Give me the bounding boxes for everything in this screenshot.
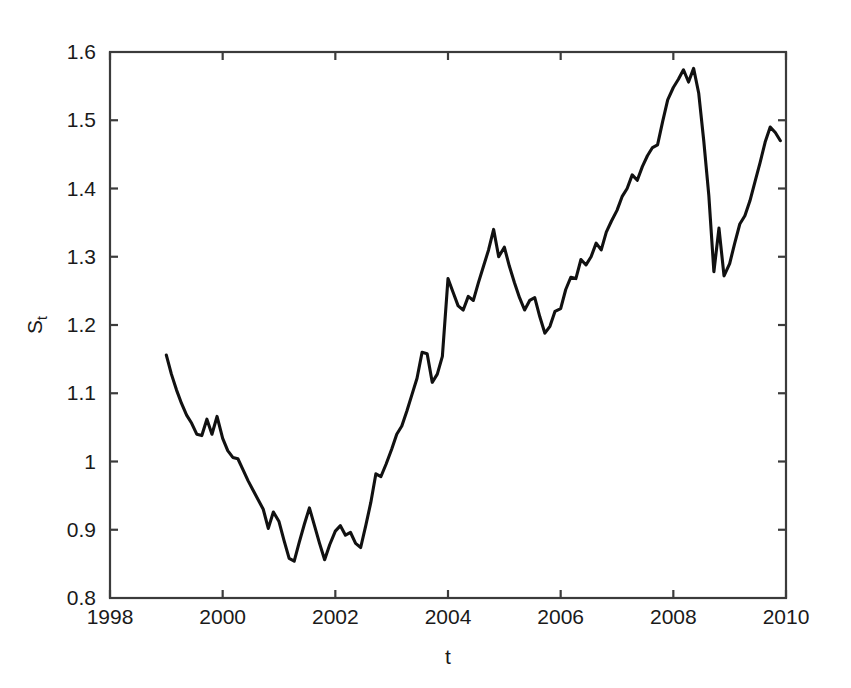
y-axis-ticks	[110, 120, 786, 530]
x-tick-label: 2008	[650, 605, 697, 628]
x-tick-label: 2004	[425, 605, 472, 628]
y-tick-label: 1.6	[67, 40, 96, 63]
plot-axes-frame	[110, 52, 786, 598]
y-tick-label: 1.2	[67, 313, 96, 336]
y-tick-label: 0.8	[67, 586, 96, 609]
series-line-st	[166, 68, 780, 561]
y-tick-label: 1.1	[67, 381, 96, 404]
data-series-group	[166, 68, 780, 561]
chart-figure: 1998200020022004200620082010 0.80.911.11…	[0, 0, 851, 688]
x-tick-label: 2010	[763, 605, 810, 628]
x-tick-label: 2002	[312, 605, 359, 628]
x-axis-ticks	[110, 52, 786, 598]
y-tick-label: 1.5	[67, 108, 96, 131]
x-axis-title: t	[445, 645, 451, 668]
x-axis-title-text: t	[445, 645, 451, 668]
x-tick-label: 2006	[537, 605, 584, 628]
y-axis-title-text: St	[23, 316, 50, 334]
line-chart-svg: 1998200020022004200620082010 0.80.911.11…	[0, 0, 851, 688]
y-tick-label: 0.9	[67, 518, 96, 541]
x-tick-label: 2000	[199, 605, 246, 628]
y-axis-tick-labels: 0.80.911.11.21.31.41.51.6	[67, 40, 97, 609]
y-tick-label: 1.3	[67, 245, 96, 268]
y-tick-label: 1	[84, 450, 96, 473]
y-axis-title: St	[23, 316, 50, 334]
y-tick-label: 1.4	[67, 177, 97, 200]
plot-box	[110, 52, 786, 598]
x-axis-tick-labels: 1998200020022004200620082010	[87, 605, 810, 628]
